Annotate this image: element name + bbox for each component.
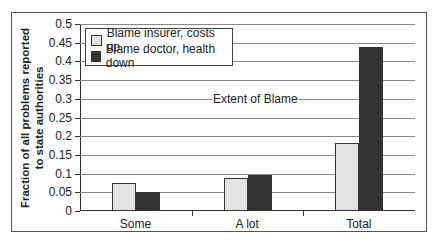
gridline <box>80 24 415 25</box>
x-tick <box>303 211 304 216</box>
chart-annotation: Extent of Blame <box>212 92 299 106</box>
y-tick <box>75 24 80 25</box>
legend: Blame insurer, costs up Blame doctor, he… <box>85 28 233 66</box>
y-tick-label: 0.45 <box>32 36 72 50</box>
y-tick <box>75 192 80 193</box>
y-tick <box>75 174 80 175</box>
y-tick <box>75 118 80 119</box>
y-axis-title-line-1: Fraction of all problems reported <box>18 28 32 208</box>
bar-doctor-a-lot <box>248 175 272 211</box>
bar-doctor-some <box>136 192 160 211</box>
legend-swatch-light <box>91 35 102 46</box>
x-tick <box>192 211 193 216</box>
y-tick <box>75 61 80 62</box>
x-tick-label: Total <box>303 217 414 231</box>
y-tick-label: 0.1 <box>32 167 72 181</box>
bar-insurer-total <box>335 143 359 211</box>
x-tick-label: A lot <box>192 217 303 231</box>
y-tick <box>75 43 80 44</box>
y-tick-label: 0.15 <box>32 148 72 162</box>
x-tick-label: Some <box>80 217 191 231</box>
bar-insurer-a-lot <box>224 178 248 211</box>
y-tick-label: 0.2 <box>32 129 72 143</box>
y-tick-label: 0.35 <box>32 73 72 87</box>
y-tick <box>75 136 80 137</box>
y-tick-label: 0.4 <box>32 54 72 68</box>
bar-insurer-some <box>112 183 136 211</box>
y-tick <box>75 211 80 212</box>
y-tick-label: 0.5 <box>32 17 72 31</box>
y-tick-label: 0.3 <box>32 92 72 106</box>
y-tick-label: 0 <box>32 204 72 218</box>
y-tick-label: 0.05 <box>32 185 72 199</box>
y-tick <box>75 99 80 100</box>
bar-doctor-total <box>359 47 383 211</box>
legend-swatch-dark <box>91 51 101 62</box>
y-tick <box>75 155 80 156</box>
legend-label: Blame doctor, health down <box>106 42 227 70</box>
y-tick <box>75 80 80 81</box>
legend-item: Blame doctor, health down <box>91 48 227 64</box>
y-tick-label: 0.25 <box>32 111 72 125</box>
